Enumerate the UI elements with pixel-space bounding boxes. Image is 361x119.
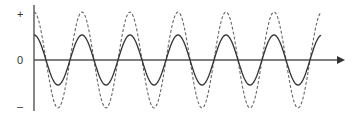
x-axis-arrow-icon: [337, 56, 345, 64]
wave-chart: [0, 0, 361, 119]
